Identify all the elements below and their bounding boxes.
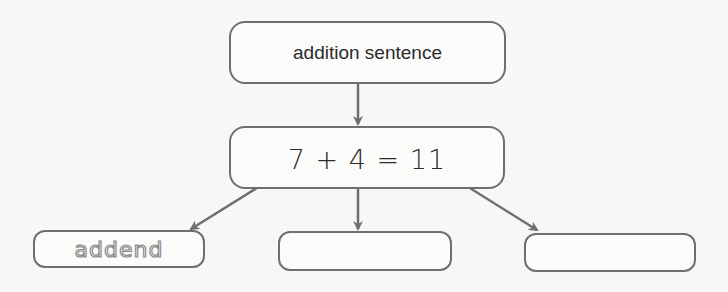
addition-sentence-label: addition sentence [293,42,442,64]
concept-map: addition sentence 7 + 4 = 11 addend [0,0,728,292]
addend-traced-label: addend [75,237,164,262]
answer-box-blank-right[interactable] [524,233,696,272]
answer-box-blank-middle[interactable] [278,231,452,271]
answer-box-addend[interactable]: addend [33,230,205,268]
addition-sentence-node: addition sentence [229,21,506,84]
equation-label: 7 + 4 = 11 [284,144,450,175]
equation-node: 7 + 4 = 11 [229,126,505,189]
